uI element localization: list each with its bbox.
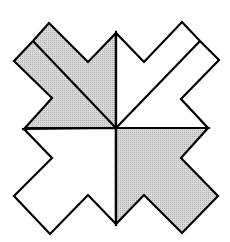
bottom-right-quadrant xyxy=(116,128,218,233)
bottom-left-quadrant xyxy=(14,128,116,234)
pinwheel-svg xyxy=(0,0,230,242)
pinwheel-figure xyxy=(0,0,230,242)
